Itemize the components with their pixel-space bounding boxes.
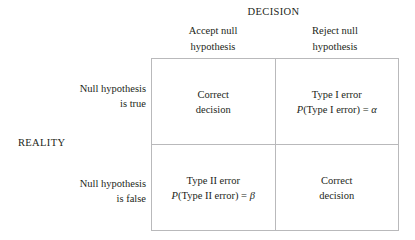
- column-header-accept-null-line2: hypothesis: [152, 39, 274, 55]
- cell-false-accept: Type II error P(Type II error) = β: [152, 145, 276, 231]
- decision-axis-title: DECISION: [151, 5, 396, 18]
- cell-true-reject-formula: P(Type I error) = α: [276, 102, 399, 117]
- cell-false-reject-line1: Correct: [276, 173, 399, 188]
- cell-false-accept-formula-body: (Type II error) =: [178, 190, 250, 201]
- hypothesis-testing-decision-matrix: DECISION Accept null hypothesis Reject n…: [0, 0, 415, 240]
- cell-true-reject: Type I error P(Type I error) = α: [275, 59, 399, 145]
- cell-true-accept: Correct decision: [152, 59, 276, 145]
- column-header-accept-null: Accept null hypothesis: [152, 23, 274, 54]
- row-header-null-true: Null hypothesis is true: [55, 82, 146, 111]
- column-header-reject-null-line1: Reject null: [274, 23, 396, 39]
- cell-false-accept-formula: P(Type II error) = β: [152, 188, 275, 203]
- row-header-null-true-line1: Null hypothesis: [55, 82, 146, 97]
- cell-false-accept-line1: Type II error: [152, 173, 275, 188]
- row-header-null-true-line2: is true: [55, 97, 146, 112]
- table-row: Correct decision Type I error P(Type I e…: [152, 59, 399, 145]
- cell-true-accept-line2: decision: [152, 102, 275, 117]
- cell-true-reject-formula-body: (Type I error) =: [303, 104, 371, 115]
- cell-true-accept-line1: Correct: [152, 87, 275, 102]
- column-header-reject-null-line2: hypothesis: [274, 39, 396, 55]
- cell-false-accept-formula-symbol: β: [250, 190, 255, 201]
- cell-false-reject-line2: decision: [276, 188, 399, 203]
- cell-true-reject-line1: Type I error: [276, 87, 399, 102]
- row-header-null-false-line1: Null hypothesis: [55, 177, 146, 192]
- table-row: Type II error P(Type II error) = β Corre…: [152, 145, 399, 231]
- column-header-reject-null: Reject null hypothesis: [274, 23, 396, 54]
- row-header-null-false: Null hypothesis is false: [55, 177, 146, 206]
- cell-false-reject: Correct decision: [275, 145, 399, 231]
- cell-true-reject-formula-symbol: α: [371, 104, 377, 115]
- column-header-accept-null-line1: Accept null: [152, 23, 274, 39]
- decision-matrix-table: Correct decision Type I error P(Type I e…: [151, 58, 399, 231]
- reality-axis-title: REALITY: [18, 136, 78, 149]
- row-header-null-false-line2: is false: [55, 192, 146, 207]
